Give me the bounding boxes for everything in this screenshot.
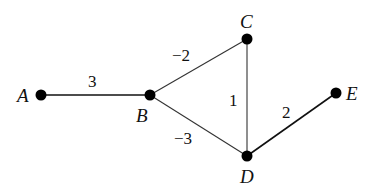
node-label-a: A: [15, 85, 29, 106]
node-d: [242, 151, 253, 162]
node-label-e: E: [345, 83, 358, 104]
node-c: [242, 34, 253, 45]
node-a: [36, 90, 47, 101]
graph-diagram: 3 −2 −3 1 2 A B C D E: [0, 0, 378, 189]
edge-b-c: [150, 39, 247, 95]
edge-label-d-e: 2: [282, 103, 291, 122]
node-b: [145, 90, 156, 101]
edge-label-c-d: 1: [229, 91, 238, 110]
edge-d-e: [247, 93, 336, 156]
edge-label-b-d: −3: [174, 129, 192, 148]
node-label-c: C: [240, 11, 253, 32]
node-e: [331, 88, 342, 99]
node-label-b: B: [136, 105, 148, 126]
node-label-d: D: [239, 166, 254, 187]
edge-label-b-c: −2: [172, 46, 190, 65]
edge-label-a-b: 3: [88, 72, 97, 91]
